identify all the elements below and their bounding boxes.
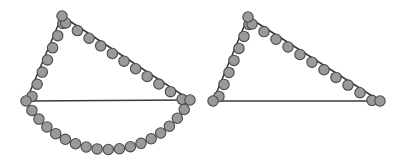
left-figure-hypotenuse-bead	[165, 86, 175, 96]
left-figure-left-edge-bead	[37, 67, 47, 77]
left-figure	[21, 11, 195, 155]
right-figure-left-edge-bead	[234, 43, 244, 53]
left-figure-arc-bead	[81, 142, 91, 152]
left-figure-arc-bead	[179, 104, 189, 114]
left-figure-left-edge-bead	[32, 79, 42, 89]
diagram-canvas	[0, 0, 402, 165]
left-figure-arc-bead	[125, 142, 135, 152]
right-figure-vertex-bottom-right-bead	[375, 96, 385, 106]
left-figure-hypotenuse-bead	[130, 64, 140, 74]
right-figure-hypotenuse-bead	[343, 80, 353, 90]
right-figure-hypotenuse-bead	[271, 34, 281, 44]
left-figure-hypotenuse-bead	[95, 41, 105, 51]
right-figure-hypotenuse-bead	[307, 57, 317, 67]
left-figure-arc-bead	[155, 128, 165, 138]
left-figure-arc-bead	[42, 122, 52, 132]
right-figure-left-edge-bead	[229, 55, 239, 65]
left-figure-left-edge-bead	[42, 55, 52, 65]
left-figure-arc-bead	[172, 113, 182, 123]
left-figure-arc-bead	[146, 134, 156, 144]
left-figure-hypotenuse-bead	[107, 48, 117, 58]
left-figure-arc-bead	[34, 114, 44, 124]
left-figure-arc-bead	[27, 105, 37, 115]
right-figure-hypotenuse-bead	[259, 26, 269, 36]
left-figure-arc-bead	[114, 144, 124, 154]
left-figure-arc-bead	[164, 121, 174, 131]
right-figure-hypotenuse-bead	[283, 42, 293, 52]
left-figure-vertex-bottom-left-bead	[21, 96, 31, 106]
left-figure-hypotenuse-bead	[154, 79, 164, 89]
left-figure-left-edge-bead	[53, 30, 63, 40]
right-figure-left-edge-bead	[224, 67, 234, 77]
left-figure-arc-bead	[136, 138, 146, 148]
geometry-diagram	[0, 0, 402, 165]
left-figure-arc-bead	[70, 139, 80, 149]
right-figure-left-edge-bead	[219, 79, 229, 89]
left-figure-base	[26, 100, 190, 101]
left-figure-arc-bead	[103, 144, 113, 154]
right-figure-hypotenuse-bead	[319, 65, 329, 75]
left-figure-arc-bead	[92, 144, 102, 154]
right-figure-vertex-apex-bead	[243, 12, 253, 22]
left-figure-left-edge-bead	[47, 43, 57, 53]
left-figure-vertex-bottom-right-bead	[185, 95, 195, 105]
left-figure-hypotenuse-bead	[142, 71, 152, 81]
right-figure	[208, 12, 385, 106]
right-figure-vertex-bottom-left-bead	[208, 96, 218, 106]
right-figure-hypotenuse-bead	[355, 88, 365, 98]
right-figure-hypotenuse-bead	[295, 49, 305, 59]
left-figure-hypotenuse-bead	[119, 56, 129, 66]
left-figure-arc-bead	[51, 128, 61, 138]
right-figure-left-edge-bead	[239, 31, 249, 41]
right-figure-hypotenuse-bead	[331, 72, 341, 82]
left-figure-hypotenuse-bead	[72, 25, 82, 35]
left-figure-arc-bead	[60, 134, 70, 144]
left-figure-vertex-apex-bead	[57, 11, 67, 21]
left-figure-hypotenuse-bead	[84, 33, 94, 43]
